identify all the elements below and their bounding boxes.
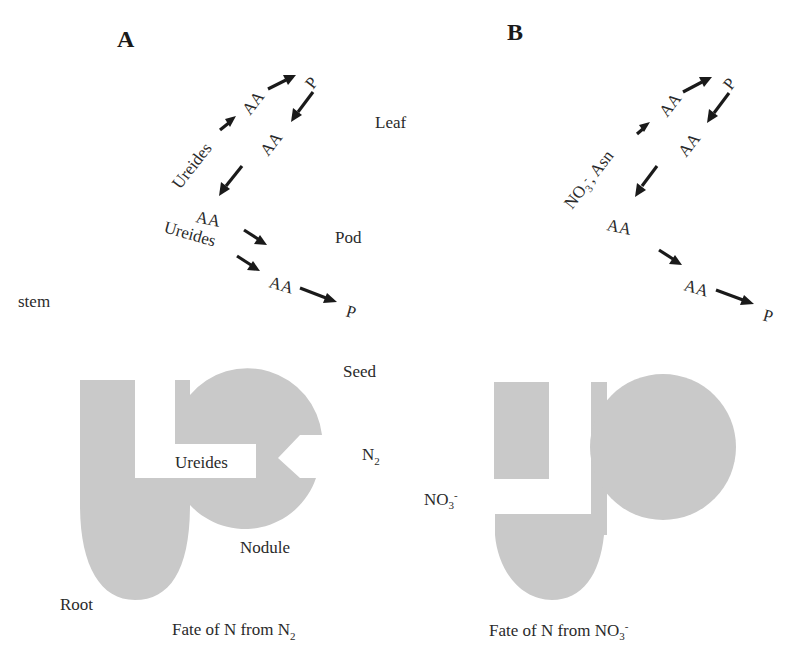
b-seed-aa-label: AA [682,276,712,301]
panel-a-letter: A [117,26,135,52]
panel-a-caption: Fate of N from N2 [172,620,296,642]
stem-label: stem [18,292,50,311]
panel-a-caption-sub: 2 [290,630,296,642]
leaf-input-no3-asn-label: NO3-, Asn [560,146,619,213]
panel-b-caption-text: Fate of N from NO [489,621,619,640]
no3-source-sup: - [454,489,458,501]
n2-base: N [362,445,374,464]
leaf-aa-1-label: AA [238,87,269,119]
root-label: Root [60,595,93,614]
nodule-shape [175,368,322,529]
n2-sub: 2 [374,455,380,467]
seed-p-label: P [344,302,358,323]
stem-block-shape [494,382,549,479]
b-leaf-aa-1-label: AA [655,89,686,121]
panel-a-plant-shapes [80,368,322,600]
nodule-circle-shape [590,374,736,520]
arrow-pod-ureides-to-seed [237,256,260,271]
b-arrow-p-to-aa [707,93,729,123]
leaf-p-label: P [301,73,322,92]
b-arrow-leaf-aa-to-pod-aa [635,166,657,197]
no3-source-label: NO3- [424,489,458,511]
arrow-aa-to-p [268,75,296,89]
arrow-seed-aa-to-p [300,288,337,303]
arrow-p-to-aa [291,92,313,122]
leaf-aa-2-label: AA [256,128,287,160]
root-bowl-shape [495,514,605,600]
leaf-label: Leaf [375,113,406,132]
b-arrow-input-to-aa [637,122,650,134]
panel-b-letter: B [507,19,523,45]
nodule-label: Nodule [240,538,290,557]
leaf-input-ureides-label: Ureides [168,139,216,192]
arrow-leaf-aa-to-pod-aa [219,166,242,196]
b-arrow-seed-aa-to-p [716,290,754,305]
b-pod-aa-label: AA [605,215,634,239]
panel-b: B NO3-, Asn AA P AA AA AA P [424,19,775,642]
b-leaf-p-label: P [719,74,740,93]
arrow-pod-aa-to-seed [244,230,267,245]
channel-ureides-label: Ureides [175,453,228,472]
b-arrow-aa-to-p [683,77,712,92]
panel-b-caption: Fate of N from NO3- [489,620,629,642]
panel-b-plant-shapes [494,374,736,600]
panel-a-caption-text: Fate of N from N [172,620,290,639]
n2-source-label: N2 [362,445,380,467]
b-arrow-pod-aa-to-seed [659,250,682,265]
seed-aa-label: AA [267,273,297,298]
no3-source-base: NO [424,490,449,509]
b-seed-p-label: P [761,306,775,327]
panel-a: A Ureides AA P AA AA Ureides AA P [18,26,406,642]
pod-label: Pod [335,228,362,247]
arrow-ureides-to-aa [220,116,236,130]
b-leaf-aa-2-label: AA [674,129,705,161]
nitrogen-fate-diagram: A Ureides AA P AA AA Ureides AA P [0,0,791,651]
root-shape [80,380,190,600]
panel-b-caption-sup: - [625,620,629,632]
seed-label: Seed [343,362,377,381]
